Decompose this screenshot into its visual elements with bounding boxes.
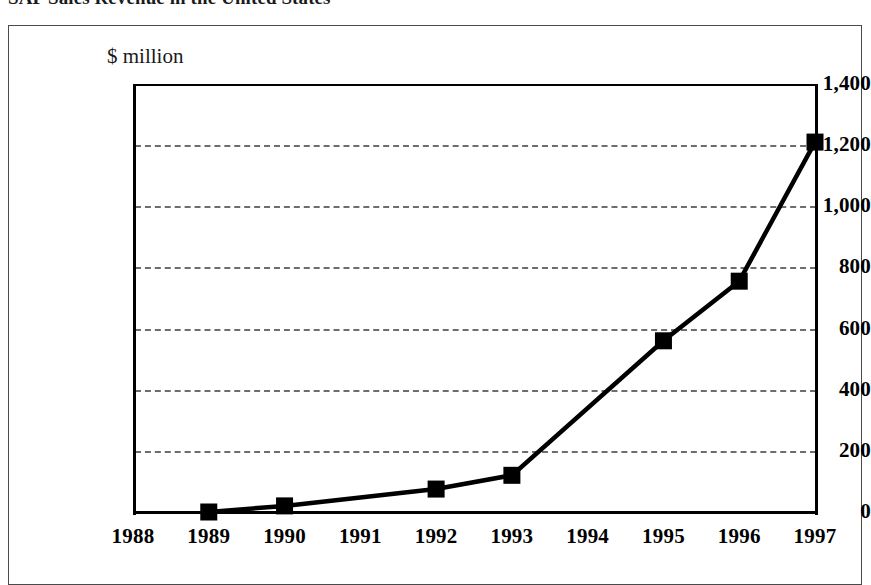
y-axis-unit-caption: $ million	[107, 44, 183, 69]
gridline	[135, 329, 816, 331]
gridline	[135, 267, 816, 269]
plot-right-border	[815, 84, 818, 515]
plot-top-border	[133, 84, 818, 86]
y-tick-label: 800	[749, 256, 871, 277]
y-tick-label: 200	[749, 440, 871, 461]
x-tick-label: 1997	[770, 524, 860, 549]
y-tick-label: 400	[749, 379, 871, 400]
page-title: SAP Sales Revenue in the United States	[8, 0, 848, 9]
x-axis-tick-labels: 1988198919901991199219931994199519961997	[0, 524, 871, 564]
gridline	[135, 390, 816, 392]
y-tick-label: 600	[749, 318, 871, 339]
figure-frame	[8, 25, 862, 585]
gridline	[135, 145, 816, 147]
gridline	[135, 451, 816, 453]
gridline	[135, 206, 816, 208]
x-axis-line	[133, 511, 818, 514]
y-tick-label: 1,200	[749, 134, 871, 155]
y-tick-label: 1,000	[749, 195, 871, 216]
y-axis-line	[133, 84, 136, 515]
